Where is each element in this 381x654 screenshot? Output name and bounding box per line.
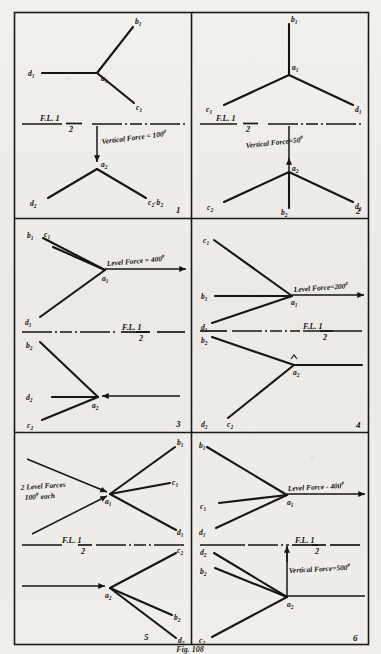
node-a2: a2 xyxy=(292,164,299,174)
node-a1: a1 xyxy=(102,274,109,284)
panel-number-2: 2 xyxy=(355,206,361,216)
label-b2: b2 xyxy=(174,613,181,623)
floor-line-numerator: 1 xyxy=(319,322,323,331)
node-a1: a1 xyxy=(292,63,299,73)
panel-6-force-level: Level Force - 400# xyxy=(287,480,365,494)
label-c2: c2 xyxy=(207,203,213,213)
floor-line-denominator: 2 xyxy=(80,547,85,556)
panel-number-3: 3 xyxy=(175,419,181,429)
label-b1: b1 xyxy=(177,438,184,448)
floor-line-label: F.L. 1 xyxy=(121,323,142,332)
member-b1 xyxy=(110,447,175,494)
panel-2: b1 c1 d1 a1 F.L. 1 2 Vertical Force=50# … xyxy=(200,15,362,218)
member-c2 xyxy=(212,597,287,637)
label-d1: d1 xyxy=(177,528,184,538)
node-a2: a2 xyxy=(105,591,112,601)
node-a2: a2 xyxy=(287,600,294,610)
force-arrow-level-2 xyxy=(32,496,107,534)
label-b1: b1 xyxy=(199,441,206,451)
floor-line-denominator: 2 xyxy=(68,125,73,134)
node-a2: a2 xyxy=(92,401,99,411)
label-c1: c1 xyxy=(136,103,142,113)
panel-4-upper-joint: c1 b1 d1 a1 xyxy=(201,236,298,333)
panel-4-lower-joint: b2 d2 c2 a2 xyxy=(201,336,362,430)
member-d1 xyxy=(110,494,176,530)
floor-line-numerator: 1 xyxy=(138,323,142,332)
label-b2: b2 xyxy=(201,336,208,346)
label-d2: d2 xyxy=(200,548,207,558)
member-b1 xyxy=(207,447,287,495)
member-d1 xyxy=(212,296,292,323)
panel-number-6: 6 xyxy=(353,633,358,643)
label-c1: c1 xyxy=(203,236,209,246)
floor-line-denominator: 2 xyxy=(322,333,327,342)
floor-line-label: F.L. 1 xyxy=(302,322,323,331)
panel-number-1: 1 xyxy=(176,205,181,215)
floor-line-numerator: 1 xyxy=(56,114,60,123)
panel-5: b1 c1 d1 a1 2 Level Forces 100# each F.L… xyxy=(20,438,185,646)
member-c1 xyxy=(53,247,105,270)
floor-line-label: F.L. 1 xyxy=(294,536,315,545)
floor-line-denominator: 2 xyxy=(314,547,319,556)
force-label-5-line1: 2 Level Forces xyxy=(20,480,66,492)
panel-5-floor-line: F.L. 1 2 xyxy=(22,536,185,556)
floor-line-label: F.L. 1 xyxy=(61,536,82,545)
panel-4-force-vector: Level Force=200# xyxy=(292,280,364,295)
label-d1: d1 xyxy=(199,528,206,538)
member-d2 xyxy=(289,172,353,202)
label-b1: b1 xyxy=(201,292,208,302)
panel-2-upper-joint: b1 c1 d1 a1 xyxy=(206,15,362,115)
label-c1: c1 xyxy=(44,230,50,240)
panel-4-floor-line: F.L. 1 2 xyxy=(200,322,362,342)
member-c2 xyxy=(228,365,294,418)
node-a1: a1 xyxy=(105,497,112,507)
plate-canvas: d1 b1 c1 a1 F.L. 1 2 Vertical Force = 10… xyxy=(0,0,381,654)
panel-3-force-vector: Level Force = 400# xyxy=(105,253,186,269)
label-c2: c2 xyxy=(27,421,33,431)
label-d1: d1 xyxy=(25,318,32,328)
label-c2: c2 xyxy=(177,546,183,556)
force-label-2: Vertical Force=50# xyxy=(245,134,304,150)
force-label-3: Level Force = 400# xyxy=(105,253,165,268)
member-b1 xyxy=(97,27,133,73)
label-d2: d2 xyxy=(26,393,33,403)
force-label-6-level: Level Force - 400# xyxy=(287,480,345,493)
label-c1: c1 xyxy=(172,478,178,488)
force-label-5-line2: 100# each xyxy=(24,490,55,502)
floor-line-label: F.L. 1 xyxy=(215,114,236,123)
member-c1 xyxy=(214,240,292,296)
member-b2 xyxy=(215,568,287,597)
label-c1: c1 xyxy=(206,105,212,115)
floor-line-label: F.L. 1 xyxy=(39,114,60,123)
panel-2-floor-line: F.L. 1 2 xyxy=(200,114,362,134)
label-d2: d2 xyxy=(201,420,208,430)
member-d2 xyxy=(48,169,97,198)
panel-2-lower-joint: a2 c2 b2 d2 xyxy=(207,164,362,218)
node-a1: a1 xyxy=(101,74,108,84)
label-b1: b1 xyxy=(135,17,142,27)
panel-1: d1 b1 c1 a1 F.L. 1 2 Vertical Force = 10… xyxy=(22,17,185,215)
panel-3-lower-joint: b2 d2 c2 a2 xyxy=(26,341,180,431)
label-c1: c1 xyxy=(200,502,206,512)
label-b1: b1 xyxy=(291,15,298,25)
panel-1-lower-joint: a2 d2 c2-b2 xyxy=(30,160,163,209)
member-c2 xyxy=(110,553,176,588)
floor-line-numerator: 1 xyxy=(78,536,82,545)
member-b2 xyxy=(212,337,294,365)
panel-5-lower-joint: c2 b2 d2 a2 xyxy=(22,546,185,646)
label-c2: c2 xyxy=(227,420,233,430)
force-label-6-vertical: Vertical Force=500# xyxy=(289,562,351,575)
node-a2: a2 xyxy=(101,160,108,170)
label-b2: b2 xyxy=(281,208,288,218)
force-label-1: Vertical Force = 100# xyxy=(101,128,167,146)
panel-3-floor-line: F.L. 1 2 xyxy=(22,323,185,343)
panel-5-upper-joint: b1 c1 d1 a1 xyxy=(105,438,184,538)
panel-3: b1 c1 d1 a1 Level Force = 400# F.L. 1 2 … xyxy=(22,230,186,431)
floor-line-numerator: 1 xyxy=(311,536,315,545)
panel-6: b1 c1 d1 a1 Level Force - 400# F.L. 1 2 … xyxy=(199,441,365,646)
panel-3-upper-joint: b1 c1 d1 a1 xyxy=(25,230,109,328)
label-b2: b2 xyxy=(200,567,207,577)
floor-line-numerator: 1 xyxy=(232,114,236,123)
member-c2b2 xyxy=(97,169,146,198)
force-diagram-plate: d1 b1 c1 a1 F.L. 1 2 Vertical Force = 10… xyxy=(0,0,381,654)
